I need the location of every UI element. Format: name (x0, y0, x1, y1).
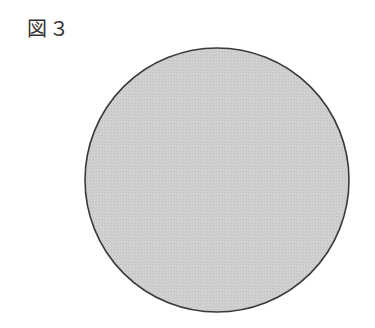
circle-shape (85, 48, 349, 312)
figure-diagram (0, 0, 375, 328)
